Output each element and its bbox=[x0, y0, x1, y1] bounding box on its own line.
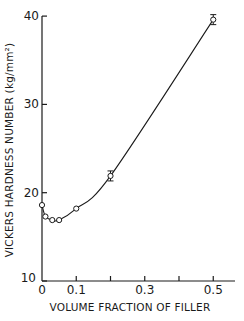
x-tick-label: 0.3 bbox=[135, 283, 154, 297]
x-tick-label: 0.1 bbox=[67, 283, 86, 297]
y-axis-title: VICKERS HARDNESS NUMBER (kg/mm²) bbox=[3, 43, 15, 258]
y-axis: 10203040 bbox=[21, 9, 47, 285]
x-axis-title: VOLUME FRACTION OF FILLER bbox=[50, 301, 211, 313]
fitted-curve bbox=[42, 20, 213, 221]
data-point-marker bbox=[50, 217, 55, 222]
x-tick-label: 0.5 bbox=[204, 283, 223, 297]
data-point-marker bbox=[211, 17, 216, 22]
data-point-marker bbox=[74, 206, 79, 211]
x-axis: 00.10.30.5 bbox=[38, 276, 235, 297]
data-points bbox=[39, 15, 216, 223]
y-tick-label: 10 bbox=[21, 271, 36, 285]
y-tick-label: 30 bbox=[24, 97, 39, 111]
y-tick-label: 20 bbox=[24, 186, 39, 200]
data-point-marker bbox=[39, 202, 44, 207]
data-point-marker bbox=[108, 173, 113, 178]
y-tick-label: 40 bbox=[24, 9, 39, 23]
data-point-marker bbox=[43, 214, 48, 219]
data-point-marker bbox=[57, 217, 62, 222]
hardness-chart: 10203040 00.10.30.5 VOLUME FRACTION OF F… bbox=[0, 0, 244, 321]
x-tick-label: 0 bbox=[38, 283, 46, 297]
